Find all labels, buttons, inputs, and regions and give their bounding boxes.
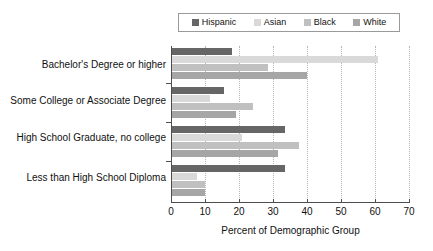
bar-white-bachelor-s-degree-or-higher[interactable]: [171, 72, 307, 79]
x-tick-40: [307, 199, 308, 203]
x-tick-10: [205, 199, 206, 203]
x-tick-30: [273, 199, 274, 203]
bar-hispanic-high-school-graduate-no-college[interactable]: [171, 126, 285, 133]
legend-item-hispanic[interactable]: Hispanic: [192, 18, 237, 27]
bar-group-high-school-graduate-no-college: [171, 126, 409, 158]
legend-swatch-white: [353, 19, 360, 26]
cat-label-some-college: Some College or Associate Degree: [4, 95, 166, 106]
bar-hispanic-bachelor-s-degree-or-higher[interactable]: [171, 48, 232, 55]
legend-swatch-asian: [254, 19, 261, 26]
x-tick-label-10: 10: [195, 206, 215, 217]
gridline-70: [409, 46, 410, 202]
bar-chart: Hispanic Asian Black White Bachelor's De…: [0, 0, 433, 251]
bar-hispanic-some-college-or-associate-degree[interactable]: [171, 87, 224, 94]
x-tick-0: [171, 199, 172, 203]
bar-group-less-than-high-school-diploma: [171, 165, 409, 197]
cat-label-hs-graduate: High School Graduate, no college: [4, 132, 166, 143]
bar-black-high-school-graduate-no-college[interactable]: [171, 142, 299, 149]
legend-label-white: White: [363, 18, 386, 27]
plot-area: [171, 46, 409, 202]
x-tick-label-60: 60: [365, 206, 385, 217]
bar-group-bachelor-s-degree-or-higher: [171, 48, 409, 80]
legend-item-asian[interactable]: Asian: [254, 18, 287, 27]
x-tick-70: [409, 199, 410, 203]
x-axis-title: Percent of Demographic Group: [171, 225, 410, 237]
x-tick-label-70: 70: [399, 206, 419, 217]
bar-white-high-school-graduate-no-college[interactable]: [171, 150, 278, 157]
bar-hispanic-less-than-high-school-diploma[interactable]: [171, 165, 285, 172]
x-tick-label-20: 20: [229, 206, 249, 217]
bar-white-less-than-high-school-diploma[interactable]: [171, 189, 205, 196]
chart-legend: Hispanic Asian Black White: [178, 13, 400, 32]
bar-asian-high-school-graduate-no-college[interactable]: [171, 134, 242, 141]
legend-label-asian: Asian: [264, 18, 287, 27]
legend-swatch-hispanic: [192, 19, 199, 26]
x-tick-label-0: 0: [161, 206, 181, 217]
bar-black-bachelor-s-degree-or-higher[interactable]: [171, 64, 268, 71]
legend-item-white[interactable]: White: [353, 18, 386, 27]
x-tick-label-30: 30: [263, 206, 283, 217]
cat-label-less-than-hs: Less than High School Diploma: [4, 172, 166, 183]
y-axis-category-labels: Bachelor's Degree or higher Some College…: [0, 0, 166, 251]
cat-label-bachelors: Bachelor's Degree or higher: [4, 59, 166, 70]
x-tick-label-40: 40: [297, 206, 317, 217]
legend-label-hispanic: Hispanic: [202, 18, 237, 27]
bar-asian-less-than-high-school-diploma[interactable]: [171, 173, 197, 180]
bar-black-less-than-high-school-diploma[interactable]: [171, 181, 205, 188]
bar-group-some-college-or-associate-degree: [171, 87, 409, 119]
legend-swatch-black: [304, 19, 311, 26]
x-tick-50: [341, 199, 342, 203]
bar-asian-some-college-or-associate-degree[interactable]: [171, 95, 210, 102]
x-tick-label-50: 50: [331, 206, 351, 217]
legend-item-black[interactable]: Black: [304, 18, 336, 27]
bar-white-some-college-or-associate-degree[interactable]: [171, 111, 236, 118]
x-tick-20: [239, 199, 240, 203]
bar-black-some-college-or-associate-degree[interactable]: [171, 103, 253, 110]
bar-asian-bachelor-s-degree-or-higher[interactable]: [171, 56, 378, 63]
x-tick-60: [375, 199, 376, 203]
y-axis-line: [171, 46, 172, 203]
legend-label-black: Black: [314, 18, 336, 27]
